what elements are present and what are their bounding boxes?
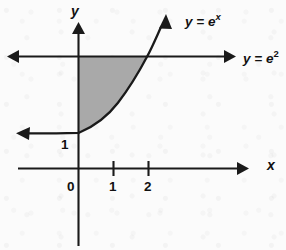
x-axis-arrow-icon (237, 162, 249, 175)
origin-label: 0 (67, 180, 75, 194)
x-tick-label-2: 2 (144, 180, 152, 194)
x-tick-label-1: 1 (109, 180, 117, 194)
level-line-left-arrow-icon (7, 50, 19, 63)
exponential-area-figure: y x y = ex y = e2 0 1 2 1 (0, 0, 286, 250)
level-equation-base: y = e (243, 51, 273, 66)
curve-equation-exponent: x (215, 11, 220, 22)
curve-right-arrow-icon (159, 14, 172, 29)
curve-left-arrow-icon (16, 127, 30, 140)
shaded-region (79, 57, 147, 133)
y-axis-arrow-icon (72, 22, 85, 34)
y-intercept-label: 1 (61, 138, 69, 152)
x-axis-label: x (267, 158, 275, 172)
level-line-right-arrow-icon (224, 50, 236, 63)
y-axis-label: y (71, 4, 79, 18)
level-line-equation-label: y = e2 (243, 49, 279, 65)
graph-canvas (0, 0, 286, 250)
curve-equation-label: y = ex (185, 12, 221, 28)
level-equation-exponent: 2 (273, 48, 278, 59)
curve-equation-base: y = e (185, 14, 215, 29)
